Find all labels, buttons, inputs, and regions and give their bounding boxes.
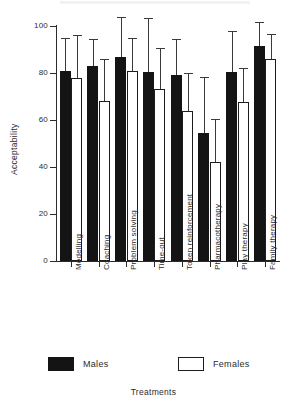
error-bar-cap-male-1 [89,39,98,40]
error-bar-cap-female-3 [156,48,165,49]
legend-item-males: Males [48,357,109,371]
bar-male-0 [60,71,71,261]
error-bar-cap-female-5 [211,119,220,120]
error-bar-stem-male-5 [204,77,205,133]
y-axis-tick [50,261,56,262]
y-axis-tick [50,26,56,27]
x-axis-category-label-4: Token reinforcement [186,194,194,270]
y-axis-tick-label: 80 [39,69,48,77]
bar-male-2 [115,57,126,261]
legend-item-females: Females [178,357,250,371]
y-axis-tick [50,120,56,121]
error-bar-stem-male-6 [232,31,233,72]
error-bar-cap-female-0 [73,35,82,36]
y-axis-tick-label: 60 [39,116,48,124]
error-bar-cap-male-5 [200,77,209,78]
y-axis-title: Acceptability [9,123,19,175]
error-bar-cap-female-6 [239,68,248,69]
bar-male-7 [254,46,265,261]
legend-label-males: Males [83,359,109,369]
x-axis-tick [265,262,266,267]
error-bar-stem-male-7 [259,22,260,46]
error-bar-stem-female-5 [215,119,216,162]
x-axis-tick [71,262,72,267]
legend-swatch-males-icon [48,357,74,371]
error-bar-cap-male-6 [228,31,237,32]
legend-label-females: Females [213,359,250,369]
y-axis-tick-label: 40 [39,163,48,171]
bar-male-4 [171,75,182,261]
bar-female-3 [154,89,165,261]
x-axis-category-label-6: Play therapy [241,223,249,270]
error-bar-stem-female-3 [160,48,161,89]
bar-male-6 [226,72,237,261]
y-axis-tick [50,73,56,74]
error-bar-cap-male-0 [61,38,70,39]
bar-male-1 [87,66,98,261]
error-bar-stem-male-1 [93,39,94,66]
y-axis-tick-label: 100 [34,22,48,30]
error-bar-cap-male-7 [255,22,264,23]
error-bar-cap-male-4 [172,39,181,40]
error-bar-stem-male-0 [65,38,66,71]
bar-chart-figure: 020406080100 ModellingCoachingProblem so… [0,0,307,404]
error-bar-cap-male-3 [144,18,153,19]
y-axis-tick-label: 0 [43,257,48,265]
x-axis-tick [154,262,155,267]
error-bar-stem-female-1 [104,59,105,101]
y-axis-tick-label: 20 [39,210,48,218]
x-axis-tick [237,262,238,267]
scan-artifact [60,1,250,4]
x-axis-category-label-7: Family therapy [269,215,277,270]
error-bar-stem-male-2 [121,17,122,57]
error-bar-cap-female-2 [128,38,137,39]
error-bar-cap-male-2 [117,17,126,18]
y-axis-tick [50,214,56,215]
error-bar-stem-female-7 [271,34,272,59]
error-bar-stem-male-3 [148,18,149,72]
error-bar-stem-female-4 [188,73,189,111]
x-axis-tick [126,262,127,267]
y-axis-tick [50,167,56,168]
x-axis-title: Treatments [0,387,307,397]
x-axis-tick [210,262,211,267]
x-axis-category-label-0: Modelling [75,234,83,270]
error-bar-cap-female-4 [184,73,193,74]
error-bar-stem-female-0 [77,35,78,77]
chart-legend: Males Females [0,357,307,381]
error-bar-cap-female-1 [100,59,109,60]
error-bar-stem-female-2 [132,38,133,71]
error-bar-stem-female-6 [243,68,244,102]
bar-male-3 [143,72,154,261]
error-bar-cap-female-7 [267,34,276,35]
error-bar-stem-male-4 [176,39,177,75]
y-axis-line [56,25,57,262]
x-axis-tick [182,262,183,267]
legend-swatch-females-icon [178,357,204,371]
bar-male-5 [198,133,209,261]
x-axis-category-label-3: Time-out [158,237,166,270]
x-axis-category-label-5: Pharmacotherapy [214,204,222,270]
x-axis-category-label-2: Problem solving [130,210,138,270]
x-axis-tick [99,262,100,267]
x-axis-category-label-1: Coaching [103,235,111,270]
